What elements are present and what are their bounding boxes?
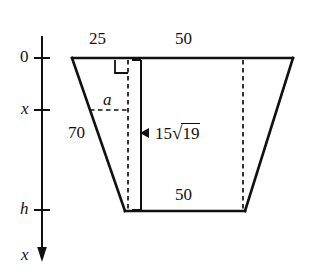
dashed-segment-label-a: a <box>103 91 112 108</box>
bottom-segment-label: 50 <box>175 186 192 203</box>
vertical-measure-line <box>132 60 149 210</box>
vertical-measure-label: 15√19 <box>155 123 200 142</box>
measure-radicand: 19 <box>181 123 200 143</box>
trapezoid-right-side <box>245 58 293 211</box>
axis-tick-label-h: h <box>20 200 29 217</box>
axis-tick-label-0: 0 <box>20 48 29 65</box>
geometry-figure: 0 x h x 25 50 50 70 a 15√19 <box>0 0 316 274</box>
depth-axis <box>34 36 50 262</box>
right-angle-marker-icon <box>115 60 128 73</box>
top-left-segment-label: 25 <box>89 30 106 47</box>
measure-coefficient: 15 <box>155 124 172 143</box>
left-slant-side-label: 70 <box>68 124 85 141</box>
axis-tick-label-x: x <box>21 100 29 117</box>
top-right-segment-label: 50 <box>175 30 192 47</box>
right-angle-square-icon <box>115 60 128 73</box>
depth-axis-arrowhead-icon <box>37 247 47 262</box>
axis-arrow-label-x: x <box>21 246 29 263</box>
